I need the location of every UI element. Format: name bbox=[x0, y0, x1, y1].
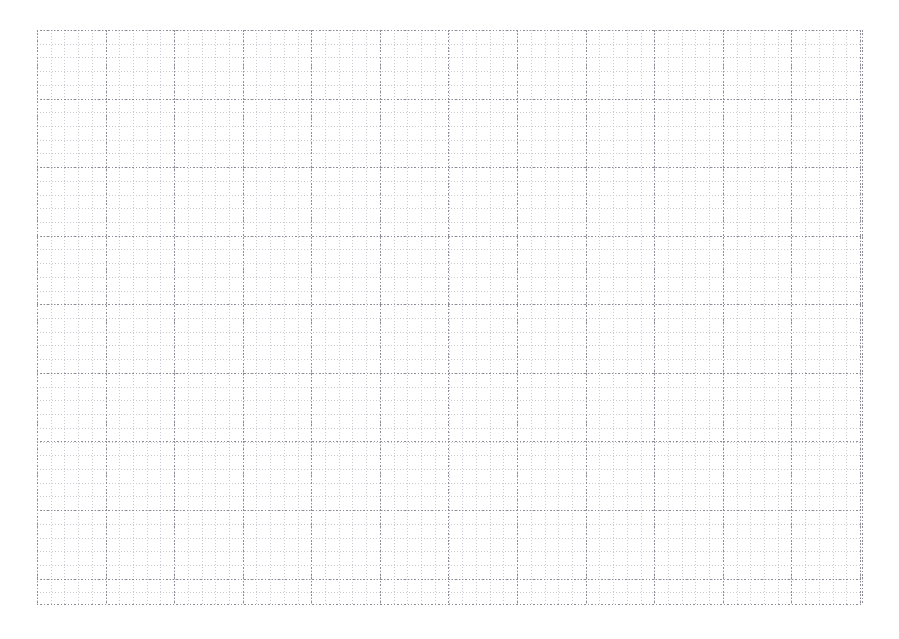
paper-sheet bbox=[0, 0, 899, 639]
major-horizontal-gridlines bbox=[37, 30, 863, 605]
grid-area bbox=[37, 30, 863, 605]
major-vertical-gridlines bbox=[37, 30, 863, 605]
minor-vertical-gridlines bbox=[37, 30, 863, 605]
grid-right-edge-line bbox=[862, 30, 863, 605]
grid-bottom-edge-line bbox=[37, 604, 863, 605]
minor-horizontal-gridlines bbox=[37, 30, 863, 605]
